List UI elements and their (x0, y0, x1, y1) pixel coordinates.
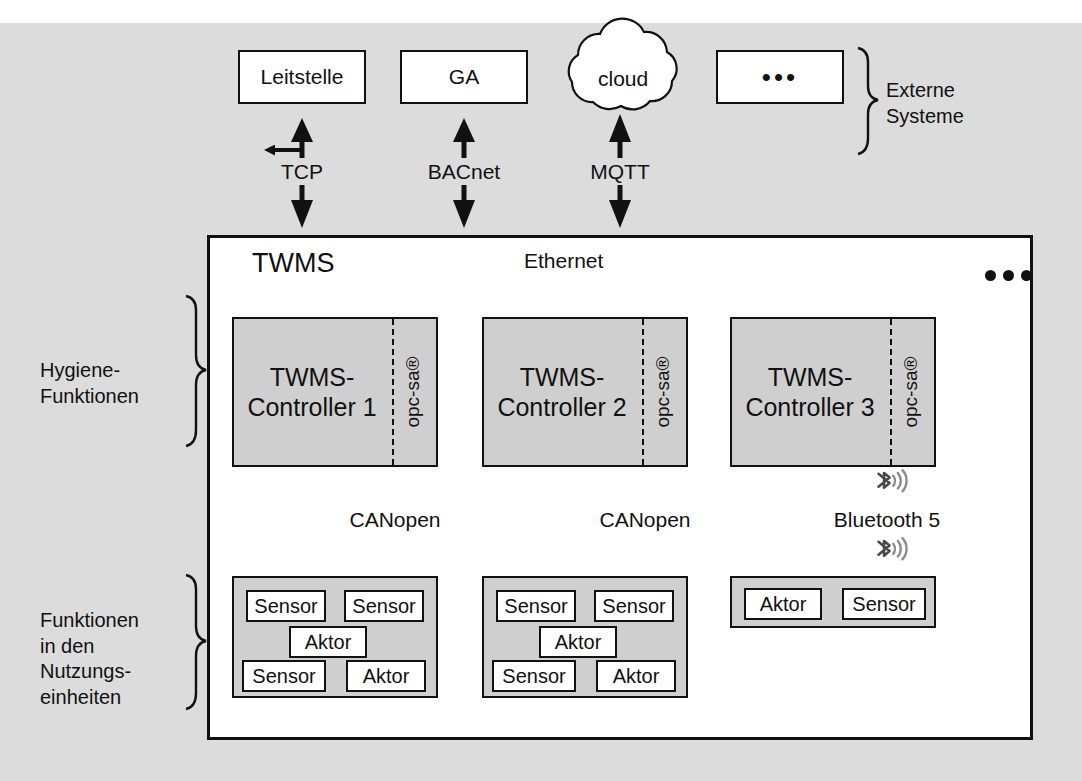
unit-device[interactable]: Aktor (289, 626, 367, 658)
unit-group-2[interactable]: Sensor Sensor Aktor Sensor Aktor (482, 576, 688, 698)
group-label-nutzungseinheiten: Funktionen in den Nutzungs- einheiten (40, 608, 200, 710)
unit-device[interactable]: Aktor (596, 660, 676, 692)
unit-device-label: Sensor (852, 593, 915, 616)
unit-device-label: Aktor (760, 593, 807, 616)
unit-device[interactable]: Sensor (246, 590, 326, 622)
group-label-hygiene: Hygiene- Funktionen (40, 358, 190, 409)
external-node-ga[interactable]: GA (400, 50, 528, 104)
unit-device-label: Sensor (502, 665, 565, 688)
ethernet-more-icon (985, 270, 1032, 281)
controller-stack-label: opc-sa® (652, 356, 674, 427)
unit-device-label: Aktor (305, 631, 352, 654)
unit-device-label: Sensor (352, 595, 415, 618)
unit-device[interactable]: Sensor (242, 660, 326, 692)
controller-2[interactable]: TWMS- Controller 2 opc-sa® (482, 317, 688, 467)
unit-device[interactable]: Aktor (744, 588, 822, 620)
controller-label: TWMS- Controller 2 (484, 362, 640, 422)
external-node-label: Leitstelle (261, 65, 344, 90)
downlink-label-bluetooth: Bluetooth 5 (812, 508, 962, 532)
unit-device[interactable]: Sensor (496, 590, 576, 622)
unit-device-label: Aktor (555, 631, 602, 654)
unit-device[interactable]: Aktor (539, 626, 617, 658)
unit-device[interactable]: Aktor (346, 660, 426, 692)
controller-stack-badge: opc-sa® (640, 319, 686, 465)
unit-device-label: Aktor (613, 665, 660, 688)
controller-1[interactable]: TWMS- Controller 1 opc-sa® (232, 317, 438, 467)
protocol-label-bacnet: BACnet (414, 160, 514, 184)
unit-device-label: Sensor (254, 595, 317, 618)
group-label-externe-systeme: Externe Systeme (886, 78, 1036, 129)
unit-group-3[interactable]: Aktor Sensor (730, 576, 936, 628)
unit-device[interactable]: Sensor (594, 590, 674, 622)
external-node-cloud-label: cloud (598, 67, 648, 91)
controller-stack-badge: opc-sa® (390, 319, 436, 465)
ethernet-bus-label: Ethernet (524, 249, 603, 273)
unit-device-label: Aktor (363, 665, 410, 688)
unit-device[interactable]: Sensor (842, 588, 926, 620)
controller-stack-label: opc-sa® (402, 356, 424, 427)
controller-stack-label: opc-sa® (900, 356, 922, 427)
controller-label: TWMS- Controller 1 (234, 362, 390, 422)
external-node-more[interactable]: ••• (716, 50, 844, 104)
unit-device[interactable]: Sensor (492, 660, 576, 692)
controller-3[interactable]: TWMS- Controller 3 opc-sa® (730, 317, 936, 467)
unit-group-1[interactable]: Sensor Sensor Aktor Sensor Aktor (232, 576, 438, 698)
external-node-label: GA (449, 65, 479, 90)
twms-title: TWMS (252, 248, 334, 279)
controller-stack-badge: opc-sa® (888, 319, 934, 465)
unit-device[interactable]: Sensor (344, 590, 424, 622)
external-node-leitstelle[interactable]: Leitstelle (238, 50, 366, 104)
downlink-label-canopen-2: CANopen (580, 508, 710, 532)
diagram-canvas: Leitstelle GA cloud ••• (0, 0, 1082, 781)
controller-label: TWMS- Controller 3 (732, 362, 888, 422)
unit-device-label: Sensor (504, 595, 567, 618)
ellipsis-icon: ••• (762, 62, 798, 93)
protocol-label-mqtt: MQTT (570, 160, 670, 184)
unit-device-label: Sensor (252, 665, 315, 688)
downlink-label-canopen-1: CANopen (330, 508, 460, 532)
protocol-label-tcp: TCP (252, 160, 352, 184)
unit-device-label: Sensor (602, 595, 665, 618)
